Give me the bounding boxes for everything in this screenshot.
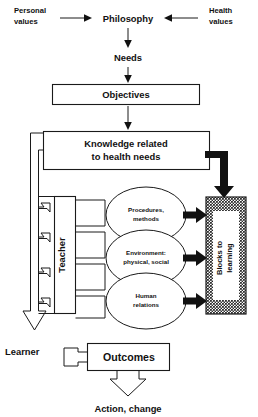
- node-action-change: Action, change: [94, 403, 161, 414]
- arrow-objectives-to-knowledge: [124, 106, 132, 130]
- outcomes-label: Outcomes: [103, 351, 155, 363]
- oval-human-relations-line2: relations: [133, 301, 159, 308]
- node-needs: Needs: [114, 52, 142, 63]
- connectors-teacher-to-ovals: [76, 200, 106, 318]
- node-philosophy: Philosophy: [103, 13, 154, 24]
- oval-procedures-line2: methods: [133, 215, 159, 222]
- node-blocks-to-learning: Blocks to learning: [206, 197, 246, 314]
- node-oval-human-relations: Human relations: [106, 273, 186, 329]
- node-teacher: Teacher: [55, 197, 76, 314]
- arrow-personal-to-philosophy: [60, 14, 92, 22]
- flow-diagram: Personal values Health values Philosophy…: [0, 0, 258, 417]
- blocks-line1: Blocks to: [215, 241, 224, 276]
- oval-environment-line2: physical, social: [123, 258, 169, 265]
- arrow-environment-to-blocks: [183, 250, 207, 266]
- personal-values-line1: Personal: [14, 6, 46, 15]
- node-personal-values: Personal values: [14, 6, 46, 26]
- health-values-line2: values: [209, 17, 233, 26]
- node-learner: Learner: [5, 346, 40, 357]
- personal-values-line2: values: [14, 17, 38, 26]
- arrow-human-relations-to-blocks: [183, 293, 207, 309]
- arrow-procedures-to-blocks: [183, 207, 207, 223]
- connectors-conduit-to-teacher: [39, 197, 55, 314]
- knowledge-line2: to health needs: [92, 151, 161, 162]
- teacher-label: Teacher: [56, 237, 67, 273]
- oval-procedures-line1: Procedures,: [128, 206, 164, 213]
- arrow-needs-to-objectives: [124, 67, 132, 83]
- node-outcomes: Outcomes: [64, 344, 170, 397]
- arrow-philosophy-to-needs: [124, 28, 132, 48]
- node-health-values: Health values: [209, 6, 233, 26]
- oval-human-relations-line1: Human: [136, 292, 157, 299]
- arrow-health-to-philosophy: [164, 14, 198, 22]
- conduit-knowledge-to-teacher: [31, 133, 44, 311]
- node-knowledge: Knowledge related to health needs: [44, 132, 210, 170]
- health-values-line1: Health: [209, 6, 233, 15]
- objectives-label: Objectives: [102, 89, 149, 100]
- diagram-canvas: Personal values Health values Philosophy…: [0, 0, 258, 417]
- oval-environment-line1: Environment:: [126, 249, 166, 256]
- node-objectives: Objectives: [53, 85, 200, 105]
- blocks-line2: learning: [225, 243, 234, 273]
- knowledge-line1: Knowledge related: [84, 138, 168, 149]
